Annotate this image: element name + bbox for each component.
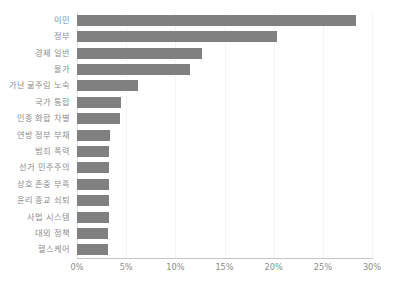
category-label: 사법 시스템: [0, 209, 74, 225]
bar[interactable]: [77, 31, 277, 42]
bar-row: [77, 94, 372, 110]
x-tick-label: 15%: [215, 261, 233, 273]
category-axis-labels: 이민정부경제 일반물가가난 굶주림 노숙국가 통합인종 화합 차별연방 정부 부…: [0, 12, 74, 258]
bar-row: [77, 28, 372, 44]
x-axis-line: [77, 258, 373, 259]
category-label: 경제 일반: [0, 45, 74, 61]
category-label: 헬스케어: [0, 242, 74, 258]
bar-row: [77, 45, 372, 61]
category-label: 가난 굶주림 노숙: [0, 78, 74, 94]
x-axis-tick-labels: 0%5%10%15%20%25%30%: [77, 261, 372, 277]
bar[interactable]: [77, 80, 138, 91]
bar-row: [77, 12, 372, 28]
category-label: 인종 화합 차별: [0, 110, 74, 126]
bar-row: [77, 192, 372, 208]
plot-area: [77, 12, 372, 258]
bar-row: [77, 110, 372, 126]
category-label: 선거 민주주의: [0, 160, 74, 176]
bar-row: [77, 61, 372, 77]
gridline: [372, 12, 373, 258]
category-label: 범죄 폭력: [0, 143, 74, 159]
bar-row: [77, 209, 372, 225]
bar-row: [77, 225, 372, 241]
bar-row: [77, 127, 372, 143]
bar-row: [77, 176, 372, 192]
x-tick-label: 25%: [314, 261, 332, 273]
bar-row: [77, 78, 372, 94]
bar[interactable]: [77, 113, 120, 124]
x-tick-label: 0%: [71, 261, 84, 273]
category-label: 정부: [0, 28, 74, 44]
category-label: 연방 정부 부채: [0, 127, 74, 143]
x-tick-label: 5%: [120, 261, 133, 273]
x-tick-label: 30%: [363, 261, 381, 273]
bar[interactable]: [77, 244, 108, 255]
bar[interactable]: [77, 162, 109, 173]
bar-series: [77, 12, 372, 258]
category-label: 대외 정책: [0, 225, 74, 241]
bar[interactable]: [77, 130, 110, 141]
category-label: 국가 통합: [0, 94, 74, 110]
bar[interactable]: [77, 212, 109, 223]
category-label: 윤리 종교 쇠퇴: [0, 192, 74, 208]
bar-row: [77, 143, 372, 159]
x-tick-label: 10%: [166, 261, 184, 273]
bar[interactable]: [77, 97, 121, 108]
bar-chart: 이민정부경제 일반물가가난 굶주림 노숙국가 통합인종 화합 차별연방 정부 부…: [0, 0, 395, 296]
category-label: 상호 존중 부족: [0, 176, 74, 192]
category-label: 이민: [0, 12, 74, 28]
bar[interactable]: [77, 146, 109, 157]
bar[interactable]: [77, 64, 190, 75]
bar[interactable]: [77, 228, 108, 239]
bar[interactable]: [77, 15, 356, 26]
bar[interactable]: [77, 179, 109, 190]
bar[interactable]: [77, 48, 202, 59]
bar-row: [77, 242, 372, 258]
category-label: 물가: [0, 61, 74, 77]
x-tick-label: 20%: [265, 261, 283, 273]
bar[interactable]: [77, 195, 109, 206]
bar-row: [77, 160, 372, 176]
